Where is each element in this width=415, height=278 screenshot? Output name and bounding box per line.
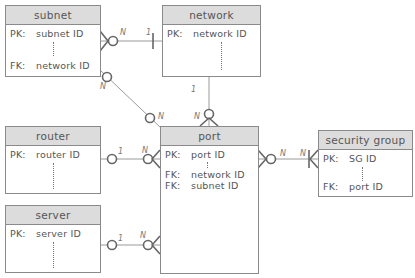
pk-field: SG ID xyxy=(349,153,377,164)
cardinality-label: N xyxy=(120,28,126,37)
cardinality-label: N xyxy=(100,82,106,91)
pk-field: subnet ID xyxy=(36,28,84,39)
pk-field: port ID xyxy=(191,149,225,160)
entity-title: security group xyxy=(319,131,412,150)
pk-label: PK: xyxy=(10,149,26,160)
cardinality-label: 1 xyxy=(146,28,151,37)
cardinality-label: 1 xyxy=(118,234,123,243)
pk-label: PK: xyxy=(10,28,26,39)
cardinality-label: N xyxy=(142,146,148,155)
pk-field: router ID xyxy=(36,149,80,160)
pk-label: PK: xyxy=(323,153,339,164)
dotted-separator xyxy=(53,242,54,268)
fk-field-network: network ID xyxy=(191,169,245,180)
fk-field: port ID xyxy=(349,181,383,192)
cardinality-label: N xyxy=(194,112,200,121)
fk-label: FK: xyxy=(323,181,339,192)
fk-label: FK: xyxy=(165,169,181,180)
cardinality-label: N xyxy=(158,112,164,121)
entity-title: subnet xyxy=(6,6,100,25)
entity-title: port xyxy=(161,127,258,146)
fk-label: FK: xyxy=(10,60,26,71)
fk-label: FK: xyxy=(165,180,181,191)
dotted-separator xyxy=(362,167,363,181)
entity-router[interactable]: router PK: router ID xyxy=(5,126,101,194)
entity-security-group[interactable]: security group PK: SG ID FK: port ID xyxy=(318,130,413,197)
entity-network[interactable]: network PK: network ID xyxy=(162,5,261,77)
pk-label: PK: xyxy=(165,149,181,160)
entity-title: server xyxy=(6,206,100,225)
pk-label: PK: xyxy=(167,28,183,39)
pk-field: server ID xyxy=(36,228,81,239)
fk-field: network ID xyxy=(36,60,90,71)
dotted-separator xyxy=(207,162,208,168)
dotted-separator xyxy=(53,42,54,56)
entity-server[interactable]: server PK: server ID xyxy=(5,205,101,273)
cardinality-label: N xyxy=(140,231,146,240)
dotted-separator xyxy=(221,42,222,70)
entity-port[interactable]: port PK: port ID FK: network ID FK: subn… xyxy=(160,126,259,274)
cardinality-label: N xyxy=(300,149,306,158)
entity-title: router xyxy=(6,127,100,146)
entity-subnet[interactable]: subnet PK: subnet ID FK: network ID xyxy=(5,5,101,77)
cardinality-label: N xyxy=(280,149,286,158)
entity-title: network xyxy=(163,6,260,25)
pk-field: network ID xyxy=(193,28,247,39)
fk-field-subnet: subnet ID xyxy=(191,180,239,191)
cardinality-label: 1 xyxy=(191,85,196,94)
cardinality-label: 1 xyxy=(118,147,123,156)
pk-label: PK: xyxy=(10,228,26,239)
dotted-separator xyxy=(53,163,54,189)
